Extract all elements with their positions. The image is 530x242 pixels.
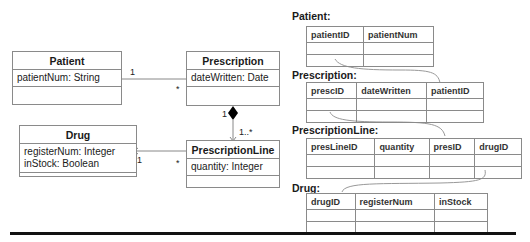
- class-attributes: registerNum: Integer inStock: Boolean: [20, 144, 136, 173]
- column-header: registerNum: [355, 194, 434, 210]
- multiplicity-drug: 1: [137, 155, 142, 165]
- class-name: Patient: [13, 52, 121, 70]
- uml-class-prescriptionline: PrescriptionLine quantity: Integer: [186, 140, 280, 188]
- relation-label-prescription: Prescription:: [292, 69, 357, 81]
- bottom-divider: [10, 232, 516, 235]
- class-attribute: dateWritten: Date: [187, 70, 279, 87]
- relation-label-patient: Patient:: [292, 10, 331, 22]
- class-operations: [20, 173, 136, 185]
- uml-class-prescription: Prescription dateWritten: Date: [186, 51, 280, 106]
- column-header: drugID: [475, 139, 522, 155]
- multiplicity-line: *: [176, 158, 180, 168]
- class-operations: [187, 176, 279, 188]
- relation-table-prescriptionline: presLineID quantity presID drugID: [306, 138, 522, 179]
- uml-class-patient: Patient patientNum: String: [12, 51, 122, 105]
- column-header: dateWritten: [357, 83, 427, 99]
- relation-label-prescriptionline: PrescriptionLine:: [292, 124, 378, 136]
- class-name: PrescriptionLine: [187, 141, 279, 159]
- uml-class-drug: Drug registerNum: Integer inStock: Boole…: [19, 125, 137, 177]
- multiplicity-prescription: *: [176, 84, 180, 94]
- column-header: quantity: [375, 139, 429, 155]
- class-attribute: registerNum: Integer: [24, 146, 132, 158]
- column-header: inStock: [434, 194, 487, 210]
- column-header: drugID: [307, 194, 356, 210]
- multiplicity-patient: 1: [130, 67, 135, 77]
- column-header: presLineID: [307, 139, 375, 155]
- relation-table-drug: drugID registerNum inStock: [306, 193, 488, 234]
- relation-table-patient: patientID patientNum: [306, 26, 434, 67]
- class-name: Drug: [20, 126, 136, 144]
- relation-table-prescription: prescID dateWritten patientID: [306, 82, 484, 123]
- column-header: patientID: [307, 27, 364, 43]
- class-attribute: patientNum: String: [13, 70, 121, 87]
- class-operations: [13, 87, 121, 101]
- column-header: prescID: [307, 83, 357, 99]
- column-header: presID: [429, 139, 475, 155]
- class-operations: [187, 87, 279, 101]
- class-attribute: quantity: Integer: [187, 159, 279, 176]
- column-header: patientID: [427, 83, 484, 99]
- class-attribute: inStock: Boolean: [24, 158, 132, 170]
- column-header: patientNum: [363, 27, 433, 43]
- multiplicity-composition-part: 1..*: [239, 127, 253, 137]
- multiplicity-composition-whole: 1: [222, 109, 227, 119]
- class-name: Prescription: [187, 52, 279, 70]
